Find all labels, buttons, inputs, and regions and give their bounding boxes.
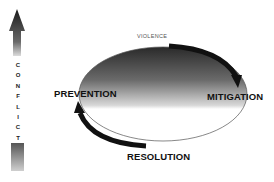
conflict-axis-label: C O N F L I C T <box>12 60 24 143</box>
axis-letter: I <box>17 112 19 122</box>
axis-letter: T <box>16 133 20 143</box>
conflict-up-arrow-icon <box>9 9 25 56</box>
axis-letter: O <box>16 70 21 80</box>
axis-letter: L <box>16 102 20 112</box>
axis-letter: C <box>16 60 20 70</box>
axis-letter: C <box>16 122 20 132</box>
prevention-label: PREVENTION <box>54 88 117 99</box>
conflict-base-box <box>11 143 24 171</box>
mitigation-label: MITIGATION <box>207 91 263 102</box>
axis-letter: F <box>16 91 20 101</box>
axis-letter: N <box>16 81 20 91</box>
violence-label: VIOLENCE <box>137 33 167 39</box>
resolution-label: RESOLUTION <box>127 151 190 162</box>
